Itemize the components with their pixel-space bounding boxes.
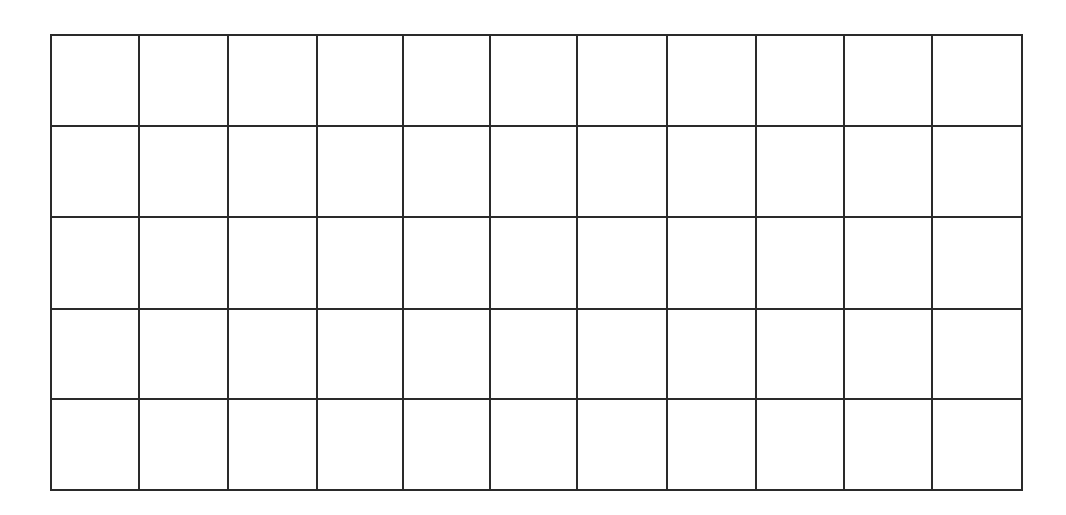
- grid-cell: [490, 126, 577, 217]
- grid-cell: [139, 217, 228, 309]
- grid-cell: [667, 309, 756, 399]
- grid-cell: [490, 399, 577, 490]
- grid-cell: [403, 399, 490, 490]
- grid-cell: [403, 309, 490, 399]
- grid-cell: [317, 399, 403, 490]
- grid-cell: [317, 35, 403, 126]
- grid-cell: [667, 126, 756, 217]
- grid-cell: [490, 35, 577, 126]
- empty-grid: [0, 0, 1066, 515]
- grid-cell: [139, 399, 228, 490]
- grid-cell: [932, 399, 1022, 490]
- grid-cell: [932, 126, 1022, 217]
- grid-cell: [667, 35, 756, 126]
- grid-cell: [844, 35, 932, 126]
- grid-cell: [139, 35, 228, 126]
- grid-cell: [577, 217, 667, 309]
- grid-cell: [577, 35, 667, 126]
- grid-cell: [490, 309, 577, 399]
- grid-cell: [317, 217, 403, 309]
- grid-cell: [577, 399, 667, 490]
- grid-cell: [756, 309, 844, 399]
- grid-cell: [844, 217, 932, 309]
- grid-cell: [403, 35, 490, 126]
- grid-cell: [756, 35, 844, 126]
- grid-cell: [667, 217, 756, 309]
- grid-cell: [139, 309, 228, 399]
- grid-cell: [844, 309, 932, 399]
- grid-cell: [51, 126, 139, 217]
- grid-cell: [228, 309, 317, 399]
- grid-cell: [667, 399, 756, 490]
- grid-cell: [228, 399, 317, 490]
- grid-cell: [403, 126, 490, 217]
- grid-cell: [317, 309, 403, 399]
- grid-cell: [756, 126, 844, 217]
- grid-cell: [51, 399, 139, 490]
- grid-cell: [228, 217, 317, 309]
- grid-cell: [756, 217, 844, 309]
- grid-cell: [490, 217, 577, 309]
- grid-cell: [228, 126, 317, 217]
- grid-cell: [51, 35, 139, 126]
- grid-cell: [403, 217, 490, 309]
- grid-cell: [756, 399, 844, 490]
- grid-cell: [932, 309, 1022, 399]
- grid-cell: [844, 399, 932, 490]
- grid-cell: [577, 126, 667, 217]
- grid-cell: [228, 35, 317, 126]
- grid-cell: [577, 309, 667, 399]
- grid-cell: [51, 217, 139, 309]
- grid-cell: [932, 35, 1022, 126]
- grid-cell: [51, 309, 139, 399]
- grid-cell: [317, 126, 403, 217]
- grid-cell: [844, 126, 932, 217]
- grid-cell: [139, 126, 228, 217]
- grid-cell: [932, 217, 1022, 309]
